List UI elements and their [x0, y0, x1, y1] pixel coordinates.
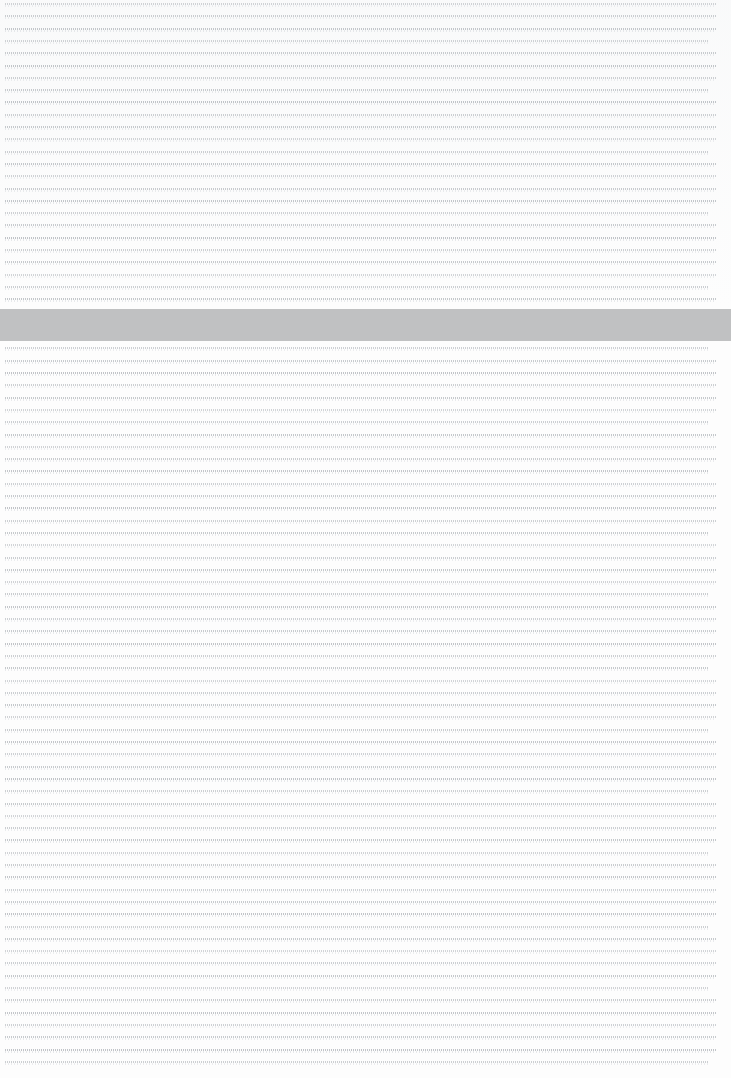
text-line: [5, 741, 716, 743]
text-line: [5, 987, 709, 989]
text-line: [5, 28, 716, 30]
text-line: [5, 876, 716, 878]
text-line: [5, 89, 709, 91]
text-line: [5, 77, 716, 79]
text-line: [5, 815, 716, 817]
text-line: [5, 188, 716, 190]
text-line: [5, 766, 716, 768]
text-line: [5, 40, 709, 42]
text-line: [5, 753, 716, 755]
text-line: [5, 224, 716, 226]
text-line: [5, 458, 716, 460]
text-line: [5, 716, 716, 718]
text-line: [5, 655, 716, 657]
text-line: [5, 397, 716, 399]
text-line: [5, 286, 709, 288]
text-line: [5, 729, 709, 731]
text-line: [5, 372, 716, 374]
text-line: [5, 446, 716, 448]
text-line: [5, 680, 716, 682]
text-line: [5, 926, 709, 928]
text-line: [5, 1036, 716, 1038]
text-line: [5, 200, 716, 202]
text-line: [5, 704, 716, 706]
text-line: [5, 889, 716, 891]
text-line: [5, 1024, 716, 1026]
text-line: [5, 839, 716, 841]
text-line: [5, 163, 716, 165]
text-line: [5, 483, 716, 485]
text-line: [5, 298, 716, 300]
text-line: [5, 692, 716, 694]
text-line: [5, 790, 709, 792]
text-line: [5, 630, 716, 632]
text-line: [5, 114, 716, 116]
text-line: [5, 151, 709, 153]
text-line: [5, 274, 716, 276]
text-highlight-band[interactable]: [0, 309, 731, 341]
text-line: [5, 507, 716, 509]
text-line: [5, 434, 716, 436]
text-line: [5, 618, 716, 620]
text-line: [5, 1061, 709, 1063]
text-line: [5, 409, 716, 411]
text-line: [5, 999, 716, 1001]
text-line: [5, 581, 716, 583]
text-line: [5, 347, 709, 349]
text-line: [5, 778, 716, 780]
text-line: [5, 261, 716, 263]
text-line: [5, 421, 709, 423]
text-line: [5, 803, 716, 805]
text-line: [5, 101, 716, 103]
text-line: [5, 827, 716, 829]
text-line: [5, 520, 716, 522]
text-line: [5, 1049, 716, 1051]
text-line: [5, 938, 716, 940]
text-line: [5, 495, 716, 497]
text-line: [5, 52, 716, 54]
text-line: [5, 901, 716, 903]
text-line: [5, 249, 716, 251]
text-line: [5, 606, 716, 608]
text-line: [5, 126, 716, 128]
text-line: [5, 360, 716, 362]
text-line: [5, 212, 709, 214]
text-line: [5, 3, 716, 5]
text-line: [5, 557, 716, 559]
text-line: [5, 593, 709, 595]
text-line: [5, 544, 716, 546]
text-line: [5, 962, 716, 964]
text-line: [5, 1012, 716, 1014]
text-line: [5, 65, 716, 67]
text-line: [5, 950, 716, 952]
text-line: [5, 237, 716, 239]
text-line: [5, 470, 709, 472]
text-line: [5, 864, 716, 866]
text-line: [5, 913, 716, 915]
text-line: [5, 15, 716, 17]
text-line: [5, 975, 716, 977]
text-line: [5, 569, 716, 571]
text-line: [5, 384, 716, 386]
text-line: [5, 643, 716, 645]
text-line: [5, 175, 716, 177]
text-line: [5, 138, 716, 140]
document-page[interactable]: [0, 0, 731, 1078]
text-line: [5, 532, 709, 534]
text-line: [5, 667, 709, 669]
document-text-column[interactable]: [0, 0, 731, 1078]
text-line: [5, 852, 709, 854]
